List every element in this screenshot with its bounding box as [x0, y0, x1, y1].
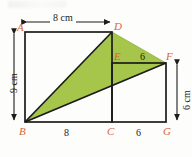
vertex-label-d: D: [114, 21, 122, 32]
dimension-right-6cm: 6 cm: [182, 90, 192, 110]
dimension-left-9cm: 9 cm: [9, 73, 19, 93]
vertex-label-e: E: [114, 51, 121, 62]
shaded-triangle-bdf: [25, 32, 166, 122]
vertex-label-b: B: [19, 126, 26, 137]
vertex-label-g: G: [163, 126, 171, 137]
diagram-canvas: A D E F B C G 8 cm 9 cm 6 cm 8 6 6: [0, 0, 192, 157]
vertex-label-c: C: [107, 126, 114, 137]
vertex-label-f: F: [166, 51, 173, 62]
vertex-label-a: A: [17, 22, 24, 33]
dimension-top-right-6: 6: [140, 52, 145, 62]
dimension-bottom-left-8: 8: [64, 128, 69, 138]
dimension-top-8cm: 8 cm: [50, 13, 76, 23]
dimension-bottom-right-6: 6: [136, 128, 141, 138]
